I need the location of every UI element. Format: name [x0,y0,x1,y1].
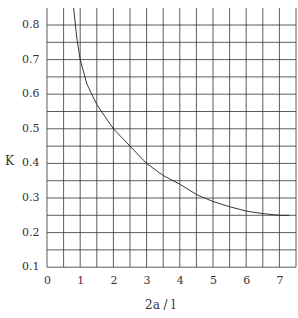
y-tick-label: 0.1 [22,260,40,273]
x-tick-label: 4 [177,274,184,287]
x-axis-label-text: 2a / l [145,298,175,312]
y-tick-label: 0.2 [22,226,40,239]
y-tick-label: 0.5 [22,122,40,135]
x-tick-label: 7 [276,274,283,287]
chart-plot [0,0,298,318]
x-axis-label: 2a / l [145,298,175,312]
y-tick-label: 0.4 [22,156,40,169]
x-tick-label: 3 [144,274,151,287]
x-tick-label: 6 [243,274,250,287]
y-axis-label: K [5,154,14,168]
x-tick-label: 1 [77,274,84,287]
y-tick-label: 0.6 [22,87,40,100]
y-tick-label: 0.8 [22,18,40,31]
y-tick-label: 0.3 [22,191,40,204]
x-tick-label: 5 [210,274,217,287]
grid-lines [47,8,296,267]
x-tick-label: 0 [44,274,51,287]
y-tick-label: 0.7 [22,53,40,66]
x-tick-label: 2 [110,274,117,287]
